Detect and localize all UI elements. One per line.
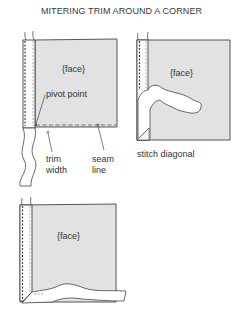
panel-2-illustration <box>137 32 230 140</box>
panel-3-illustration <box>20 197 126 303</box>
seam-label-line1: seam <box>92 154 114 165</box>
face-fabric <box>35 39 117 127</box>
trim-label-line2: width <box>46 165 67 176</box>
panel-2-face-label: {face} <box>170 68 193 79</box>
panel-3-face-label: {face} <box>57 231 80 242</box>
trim-width-leader <box>48 133 52 152</box>
trim-label-line1: trim <box>46 154 61 165</box>
thread-ends-icon <box>138 32 149 40</box>
seam-label-line2: line <box>92 165 106 176</box>
pivot-point-label: pivot point <box>46 89 87 100</box>
panel-1-face-label: {face} <box>62 64 85 75</box>
thread-ends-icon <box>25 31 34 40</box>
trim-tail <box>20 128 36 186</box>
stitch-diagonal-caption: stitch diagonal <box>137 149 195 160</box>
pivot-point-marker <box>35 124 37 126</box>
seam-line-leader <box>98 126 104 150</box>
illustrations <box>0 0 243 326</box>
thread-ends-icon <box>22 197 32 205</box>
